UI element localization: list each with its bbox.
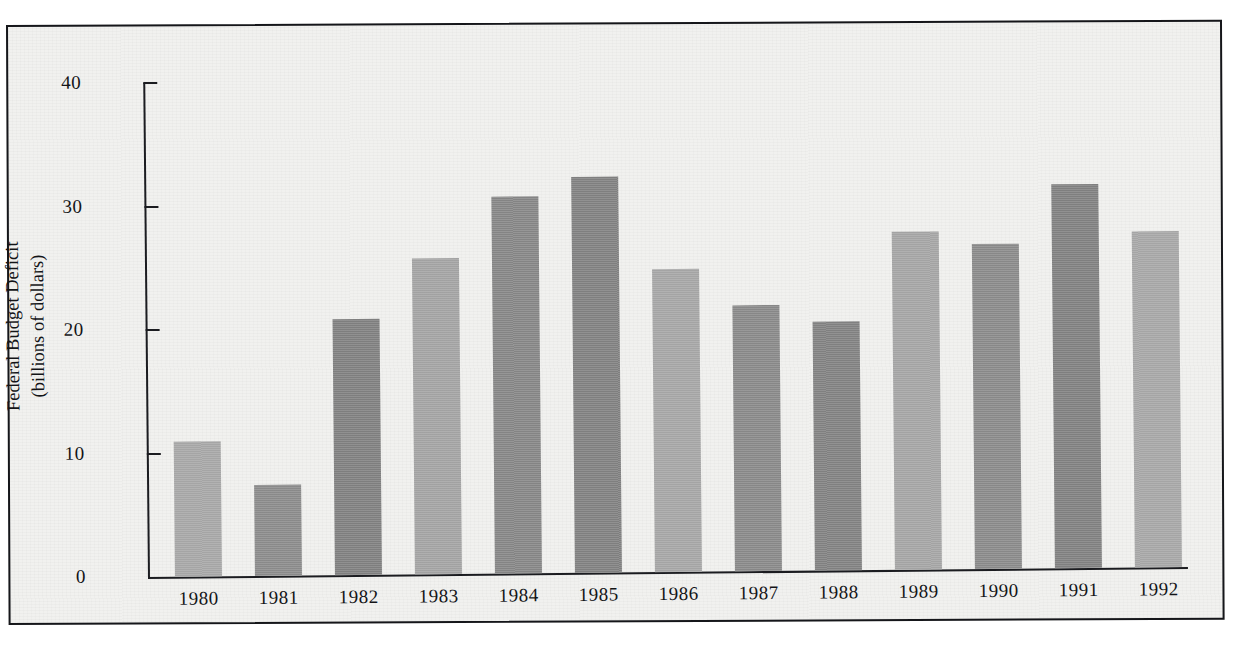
x-axis-tick-label-1989: 1989 <box>879 580 959 603</box>
bar-1990 <box>972 244 1022 569</box>
bar-1984 <box>491 197 542 574</box>
bar-1991 <box>1051 184 1102 569</box>
bar-1987 <box>732 305 782 571</box>
y-axis-tick-label: 30 <box>62 196 82 215</box>
x-axis-tick-label-1986: 1986 <box>639 583 719 606</box>
bar-1992 <box>1132 231 1182 567</box>
page-root: 010203040 Federal Budget Deficit (billio… <box>0 0 1238 652</box>
y-axis-title: Federal Budget Deficit (billions of doll… <box>0 166 52 486</box>
x-axis-tick-label-1981: 1981 <box>239 586 319 609</box>
x-axis-tick-label-1988: 1988 <box>799 581 879 604</box>
x-axis-tick-label-1991: 1991 <box>1039 579 1119 602</box>
x-axis-tick-label-1982: 1982 <box>319 586 399 609</box>
y-axis-tick-label: 0 <box>76 567 86 586</box>
x-axis-tick-label-1985: 1985 <box>559 583 639 606</box>
bar-1980 <box>174 442 222 577</box>
y-axis-ticks <box>0 0 1232 1</box>
y-axis-tick-label: 40 <box>61 73 81 92</box>
bar-chart: 010203040 Federal Budget Deficit (billio… <box>0 0 1238 652</box>
bar-1983 <box>412 258 462 575</box>
y-axis-title-line-1: Federal Budget Deficit <box>0 166 27 486</box>
bar-1989 <box>892 231 942 570</box>
x-axis-tick-label-1983: 1983 <box>399 585 479 608</box>
y-axis-tick-labels: 010203040 <box>0 0 1232 1</box>
bar-1988 <box>813 321 862 571</box>
x-axis-tick-label-1990: 1990 <box>959 579 1039 602</box>
y-axis-tick-label: 10 <box>65 443 85 462</box>
bar-1985 <box>571 176 622 573</box>
y-axis-tick-label: 20 <box>64 320 84 339</box>
y-axis-title-line-2: (billions of dollars) <box>24 166 52 486</box>
bar-1982 <box>333 319 382 575</box>
x-axis-tick-label-1987: 1987 <box>719 582 799 605</box>
x-axis-tick-label-1984: 1984 <box>479 584 559 607</box>
x-axis-tick-label-1992: 1992 <box>1119 578 1199 601</box>
bar-1986 <box>652 269 702 572</box>
x-axis-tick-labels: 1980198119821983198419851986198719881989… <box>0 0 1232 1</box>
plot-area <box>145 73 1188 577</box>
bar-1981 <box>254 484 302 576</box>
x-axis-tick-label-1980: 1980 <box>159 587 239 610</box>
